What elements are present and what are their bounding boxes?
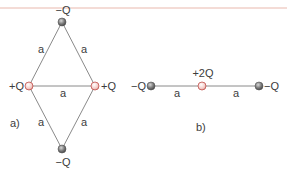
edge-label: a bbox=[174, 87, 181, 99]
positive-charge-icon bbox=[91, 82, 99, 90]
diagram-a: a a a a a −Q +Q +Q −Q a) bbox=[9, 4, 116, 168]
edge-label: a bbox=[81, 116, 88, 128]
charge-diagrams: a a a a a −Q +Q +Q −Q a) a a −Q +2Q −Q b… bbox=[0, 0, 287, 172]
edge-label: a bbox=[38, 43, 45, 55]
charge-label: −Q bbox=[56, 4, 71, 16]
edge-label: a bbox=[233, 87, 240, 99]
charge-label: +Q bbox=[9, 80, 24, 92]
charge-label: +2Q bbox=[192, 67, 214, 79]
positive-charge-icon bbox=[25, 82, 33, 90]
diagram-b: a a −Q +2Q −Q b) bbox=[131, 67, 279, 133]
negative-charge-icon bbox=[147, 82, 155, 90]
negative-charge-icon bbox=[58, 18, 66, 26]
charge-label: −Q bbox=[131, 80, 146, 92]
edge-label: a bbox=[60, 87, 67, 99]
edge-label: a bbox=[81, 43, 88, 55]
charge-label: −Q bbox=[264, 80, 279, 92]
positive-charge-icon bbox=[198, 82, 206, 90]
negative-charge-icon bbox=[255, 82, 263, 90]
charge-label: +Q bbox=[101, 80, 116, 92]
edge-a-right-bottom bbox=[62, 86, 95, 149]
panel-label-a: a) bbox=[10, 117, 20, 129]
edge-a-top-left bbox=[29, 22, 62, 86]
panel-label-b: b) bbox=[196, 121, 206, 133]
edge-a-top-right bbox=[62, 22, 95, 86]
charge-label: −Q bbox=[56, 156, 71, 168]
edge-a-left-bottom bbox=[29, 86, 62, 149]
edge-label: a bbox=[38, 116, 45, 128]
negative-charge-icon bbox=[58, 145, 66, 153]
